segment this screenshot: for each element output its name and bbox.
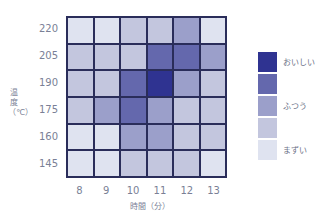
y-tick-label: 145 xyxy=(30,158,58,169)
heatmap-cell xyxy=(201,45,226,70)
x-tick-label: 11 xyxy=(150,185,170,196)
legend-item xyxy=(258,74,328,94)
legend-item: ふつう xyxy=(258,96,328,116)
y-tick-label: 160 xyxy=(30,131,58,142)
legend-swatch xyxy=(258,74,277,94)
heatmap-cell xyxy=(201,125,226,150)
x-tick-label: 10 xyxy=(123,185,143,196)
heatmap-cell xyxy=(68,125,93,150)
legend-label: おいしい xyxy=(283,56,315,67)
heatmap-cell xyxy=(68,98,93,123)
x-axis-label: 時間（分） xyxy=(110,200,190,211)
heatmap-cell xyxy=(174,151,199,176)
heatmap-cell xyxy=(95,45,120,70)
y-axis-label: 温度（℃） xyxy=(8,88,20,118)
legend-swatch xyxy=(258,118,277,138)
heatmap-cell xyxy=(201,98,226,123)
heatmap-cell xyxy=(95,18,120,43)
x-tick-label: 8 xyxy=(69,185,89,196)
heatmap-cell xyxy=(121,18,146,43)
legend-label: ふつう xyxy=(283,100,307,111)
heatmap-cell xyxy=(174,18,199,43)
y-tick-label: 205 xyxy=(30,50,58,61)
y-tick-label: 220 xyxy=(30,23,58,34)
heatmap-grid xyxy=(66,16,227,178)
heatmap-cell xyxy=(68,71,93,96)
legend: おいしいふつうまずい xyxy=(258,52,328,162)
heatmap-cell xyxy=(174,98,199,123)
heatmap-cell xyxy=(95,151,120,176)
heatmap-cell xyxy=(148,125,173,150)
heatmap-cell xyxy=(68,18,93,43)
heatmap-cell xyxy=(201,18,226,43)
y-tick-label: 175 xyxy=(30,104,58,115)
heatmap-cell xyxy=(148,18,173,43)
heatmap-cell xyxy=(201,71,226,96)
heatmap-cell xyxy=(174,45,199,70)
legend-item xyxy=(258,118,328,138)
heatmap-cell xyxy=(121,98,146,123)
heatmap-cell xyxy=(148,71,173,96)
legend-item: まずい xyxy=(258,140,328,160)
x-tick-label: 9 xyxy=(96,185,116,196)
heatmap-cell xyxy=(121,45,146,70)
heatmap-cell xyxy=(148,45,173,70)
x-tick-label: 12 xyxy=(177,185,197,196)
heatmap-cell xyxy=(174,71,199,96)
legend-label: まずい xyxy=(283,144,307,155)
heatmap-cell xyxy=(121,125,146,150)
heatmap-cell xyxy=(95,98,120,123)
heatmap-cell xyxy=(148,98,173,123)
heatmap-cell xyxy=(68,45,93,70)
legend-swatch xyxy=(258,96,277,116)
heatmap-cell xyxy=(121,151,146,176)
heatmap-cell xyxy=(174,125,199,150)
heatmap-cell xyxy=(95,125,120,150)
heatmap-cell xyxy=(68,151,93,176)
heatmap-cell xyxy=(95,71,120,96)
legend-swatch xyxy=(258,140,277,160)
x-tick-label: 13 xyxy=(204,185,224,196)
heatmap-cell xyxy=(201,151,226,176)
heatmap-cell xyxy=(148,151,173,176)
legend-item: おいしい xyxy=(258,52,328,72)
legend-swatch xyxy=(258,52,277,72)
y-tick-label: 190 xyxy=(30,77,58,88)
heatmap-cell xyxy=(121,71,146,96)
